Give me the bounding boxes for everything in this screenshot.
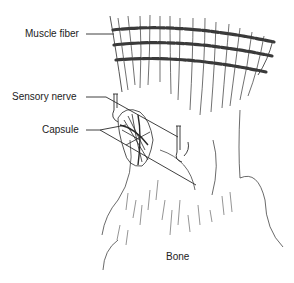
- label-muscle-fiber: Muscle fiber: [25, 28, 79, 40]
- label-bone: Bone: [166, 251, 189, 263]
- label-capsule: Capsule: [42, 124, 79, 136]
- leader-sensory-nerve-b: [106, 97, 178, 137]
- golgi-tendon-organ-diagram: Muscle fiber Sensory nerve Capsule Bone: [0, 0, 294, 283]
- label-sensory-nerve: Sensory nerve: [12, 91, 76, 103]
- diagram-illustration: [0, 0, 294, 283]
- leader-capsule-c: [100, 130, 196, 185]
- leader-capsule-b: [100, 125, 126, 130]
